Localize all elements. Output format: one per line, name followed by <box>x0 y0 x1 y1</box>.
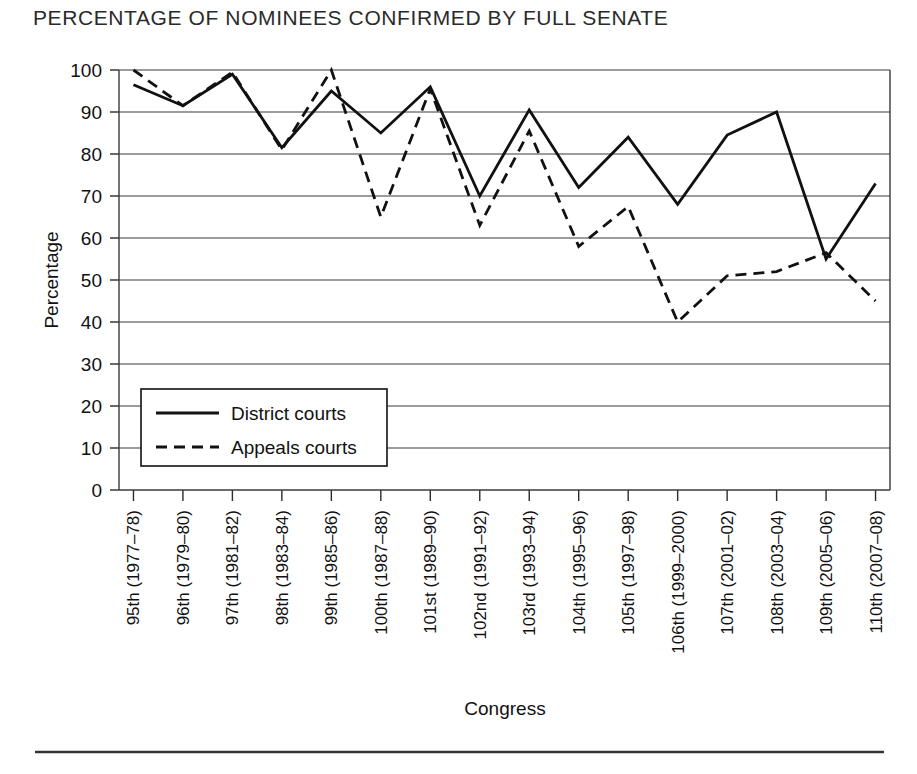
x-tick-label: 100th (1987–88) <box>372 510 391 635</box>
x-tick-label: 110th (2007–08) <box>867 510 886 634</box>
x-tick-label: 102nd (1991–92) <box>471 510 490 640</box>
x-tick-label: 99th (1985–86) <box>322 510 341 625</box>
legend-label: District courts <box>231 403 346 424</box>
y-tick-label: 100 <box>70 60 102 81</box>
y-tick-label: 40 <box>81 312 102 333</box>
x-tick-label: 104th (1995–96) <box>570 510 589 635</box>
x-tick-label: 103rd (1993–94) <box>520 510 539 636</box>
y-tick-label: 20 <box>81 396 102 417</box>
x-tick-label: 97th (1981–82) <box>223 510 242 625</box>
x-tick-label: 106th (1999–2000) <box>669 510 688 654</box>
y-tick-labels: 0102030405060708090100 <box>70 60 102 501</box>
x-tick-label: 107th (2001–02) <box>718 510 737 635</box>
y-axis-label: Percentage <box>41 231 62 328</box>
y-tick-label: 80 <box>81 144 102 165</box>
x-tick-label: 105th (1997–98) <box>619 510 638 635</box>
y-tick-label: 50 <box>81 270 102 291</box>
line-chart: 0102030405060708090100 95th (1977–78)96t… <box>0 0 917 774</box>
y-tick-label: 90 <box>81 102 102 123</box>
x-tick-label: 96th (1979–80) <box>174 510 193 625</box>
y-tick-label: 0 <box>91 480 102 501</box>
chart-figure: 0102030405060708090100 95th (1977–78)96t… <box>0 0 917 774</box>
y-tick-label: 30 <box>81 354 102 375</box>
chart-legend: District courtsAppeals courts <box>141 389 387 466</box>
x-tick-label: 98th (1983–84) <box>273 510 292 625</box>
x-tick-label: 109th (2005–06) <box>817 510 836 635</box>
y-tick-label: 10 <box>81 438 102 459</box>
x-tick-label: 95th (1977–78) <box>124 510 143 625</box>
y-tick-label: 60 <box>81 228 102 249</box>
x-tick-marks <box>133 490 875 501</box>
y-tick-label: 70 <box>81 186 102 207</box>
y-tick-marks <box>110 70 119 490</box>
series-line-district-courts <box>133 74 875 259</box>
x-tick-label: 108th (2003–04) <box>768 510 787 635</box>
x-tick-labels: 95th (1977–78)96th (1979–80)97th (1981–8… <box>124 510 885 654</box>
x-tick-label: 101st (1989–90) <box>421 510 440 634</box>
legend-label: Appeals courts <box>231 437 357 458</box>
x-axis-label: Congress <box>464 698 545 719</box>
